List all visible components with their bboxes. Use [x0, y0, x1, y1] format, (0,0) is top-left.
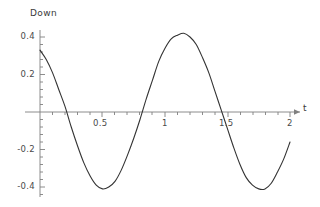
x-tick-label-2: 1.5: [219, 118, 233, 128]
x-axis-label: t: [303, 103, 307, 113]
data-series-line: [40, 33, 290, 189]
x-axis-arrow-icon: [294, 109, 300, 114]
x-tick-label-3: 2: [287, 118, 293, 128]
plot-area: [0, 0, 320, 207]
y-ticks-group: [40, 37, 45, 195]
y-axis-label: Down: [30, 8, 57, 18]
y-tick-label-2: -0.2: [5, 144, 35, 154]
x-ticks-group: [53, 112, 291, 117]
y-tick-label-1: 0.2: [9, 69, 35, 79]
x-tick-label-1: 1: [162, 118, 168, 128]
y-tick-label-0: 0.4: [9, 31, 35, 41]
chart-container: Down t 0.4 0.2 -0.2 -0.4 0.5 1 1.5 2: [0, 0, 320, 207]
x-tick-label-0: 0.5: [93, 118, 107, 128]
axes-group: [25, 30, 300, 197]
y-tick-label-3: -0.4: [5, 181, 35, 191]
